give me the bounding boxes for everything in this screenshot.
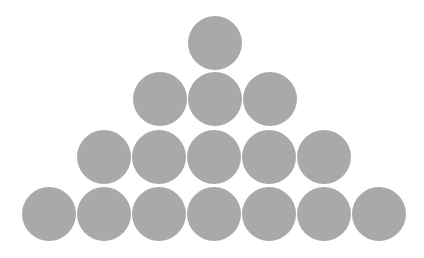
circle-row4-2 [77,187,131,241]
circle-row4-3 [132,187,186,241]
circle-row3-2 [132,130,186,184]
circle-row3-4 [242,130,296,184]
circle-row4-5 [242,187,296,241]
circle-triangle-diagram [0,0,424,258]
circle-row3-3 [187,130,241,184]
circle-row2-1 [133,72,187,126]
circle-row2-2 [188,72,242,126]
circle-row4-4 [187,187,241,241]
circle-row3-5 [297,130,351,184]
circle-row4-6 [297,187,351,241]
circle-row3-1 [77,130,131,184]
circle-row1-1 [188,16,242,70]
circle-row2-3 [243,72,297,126]
circle-row4-1 [22,187,76,241]
circle-row4-7 [352,187,406,241]
